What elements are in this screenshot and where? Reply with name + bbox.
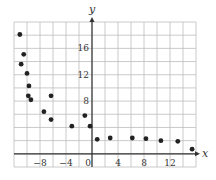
x-tick-label: 12 xyxy=(164,158,175,168)
x-tick-label: 0 xyxy=(85,158,91,168)
y-axis-label: y xyxy=(88,3,96,16)
x-axis-arrow-icon xyxy=(195,151,200,156)
y-tick-label: 8 xyxy=(83,96,89,106)
y-tick-label: 12 xyxy=(78,70,89,80)
data-point xyxy=(144,136,149,141)
data-point xyxy=(95,137,100,142)
data-point xyxy=(21,52,26,57)
grid-lines xyxy=(14,22,196,167)
y-axis-arrow-icon xyxy=(90,17,95,22)
data-point xyxy=(190,147,195,152)
x-tick-label: 8 xyxy=(141,158,147,168)
data-point xyxy=(130,136,135,141)
data-point xyxy=(108,136,113,141)
data-point xyxy=(49,117,54,122)
x-tick-label: −8 xyxy=(33,158,47,168)
x-tick-label: −4 xyxy=(59,158,73,168)
axes xyxy=(14,17,200,167)
data-point xyxy=(27,84,32,89)
tick-labels: −8−40481281216 xyxy=(33,43,175,168)
scatter-chart: −8−40481281216 x y xyxy=(0,0,216,180)
data-point xyxy=(26,93,31,98)
data-point xyxy=(25,71,30,76)
data-point xyxy=(19,62,24,67)
data-point xyxy=(49,93,54,98)
data-point xyxy=(175,139,180,144)
x-tick-label: 4 xyxy=(115,158,121,168)
data-point xyxy=(29,97,34,102)
data-point xyxy=(82,113,87,118)
data-point xyxy=(69,124,74,129)
data-point xyxy=(159,138,164,143)
data-point xyxy=(88,124,93,129)
data-points xyxy=(17,32,194,151)
y-tick-label: 16 xyxy=(78,43,90,53)
data-point xyxy=(17,32,22,37)
x-axis-label: x xyxy=(202,147,209,160)
data-point xyxy=(42,109,47,114)
